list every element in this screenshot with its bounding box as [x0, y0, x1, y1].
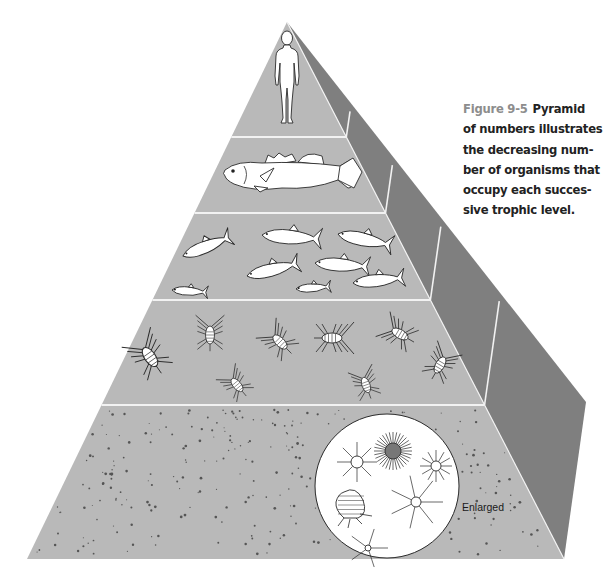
phytoplankton-speck	[292, 420, 293, 421]
phytoplankton-speck	[248, 442, 249, 443]
phytoplankton-speck	[315, 507, 316, 508]
phytoplankton-speck	[483, 452, 485, 454]
phytoplankton-speck	[232, 413, 234, 415]
phytoplankton-speck	[270, 531, 272, 533]
phytoplankton-speck	[274, 424, 276, 426]
phytoplankton-speck	[291, 425, 293, 427]
phytoplankton-speck	[298, 468, 300, 470]
phytoplankton-speck	[461, 471, 463, 473]
phytoplankton-speck	[110, 487, 112, 489]
phytoplankton-speck	[334, 413, 335, 414]
phytoplankton-speck	[519, 501, 522, 504]
phytoplankton-speck	[77, 550, 79, 552]
phytoplankton-speck	[254, 525, 256, 527]
phytoplankton-speck	[300, 475, 303, 478]
phytoplankton-speck	[265, 496, 267, 498]
phytoplankton-speck	[253, 480, 255, 482]
phytoplankton-speck	[107, 447, 109, 449]
phytoplankton-speck	[113, 465, 114, 466]
phytoplankton-speck	[120, 491, 122, 493]
phytoplankton-speck	[402, 412, 404, 414]
phytoplankton-speck	[293, 505, 296, 508]
phytoplankton-speck	[188, 409, 191, 412]
phytoplankton-speck	[149, 423, 150, 424]
phytoplankton-speck	[82, 545, 84, 547]
phytoplankton-speck	[173, 476, 174, 477]
trophic-pyramid-diagram: .org{fill:#ffffff;stroke:#2a2a2a;stroke-…	[0, 0, 616, 587]
phytoplankton-speck	[480, 472, 481, 473]
phytoplankton-speck	[121, 504, 122, 505]
phytoplankton-speck	[150, 509, 152, 511]
phytoplankton-speck	[199, 439, 202, 442]
phytoplankton-speck	[239, 473, 240, 474]
radiolarian-a	[337, 442, 377, 482]
phytoplankton-speck	[309, 477, 311, 479]
phytoplankton-speck	[201, 428, 203, 430]
phytoplankton-speck	[159, 429, 160, 430]
phytoplankton-speck	[211, 429, 213, 431]
cell-body	[365, 545, 371, 551]
phytoplankton-speck	[266, 552, 267, 553]
phytoplankton-speck	[306, 412, 309, 415]
phytoplankton-speck	[330, 539, 331, 540]
phytoplankton-speck	[91, 433, 94, 436]
phytoplankton-speck	[306, 485, 308, 487]
phytoplankton-speck	[247, 496, 249, 498]
phytoplankton-speck	[475, 421, 477, 423]
phytoplankton-speck	[441, 413, 442, 414]
phytoplankton-speck	[115, 499, 117, 501]
phytoplankton-speck	[189, 507, 190, 508]
phytoplankton-speck	[487, 464, 489, 466]
phytoplankton-speck	[404, 412, 405, 413]
phytoplankton-speck	[498, 480, 501, 483]
phytoplankton-speck	[313, 540, 316, 543]
phytoplankton-speck	[146, 501, 149, 504]
phytoplankton-speck	[510, 503, 512, 505]
phytoplankton-speck	[537, 546, 538, 547]
phytoplankton-speck	[89, 454, 92, 457]
phytoplankton-speck	[287, 409, 289, 411]
phytoplankton-speck	[317, 413, 319, 415]
phytoplankton-speck	[216, 489, 217, 490]
phytoplankton-speck	[119, 435, 120, 436]
phytoplankton-speck	[283, 534, 285, 536]
phytoplankton-speck	[82, 484, 84, 486]
phytoplankton-speck	[184, 514, 187, 517]
phytoplankton-speck	[290, 505, 291, 506]
phytoplankton-speck	[182, 476, 184, 478]
phytoplankton-speck	[222, 410, 224, 412]
large-fish-eye	[231, 169, 235, 173]
caption-line-1: of numbers illustrates	[463, 122, 602, 136]
phytoplankton-speck	[214, 516, 217, 519]
phytoplankton-speck	[39, 549, 41, 551]
phytoplankton-speck	[184, 445, 187, 448]
phytoplankton-speck	[485, 492, 486, 493]
phytoplankton-speck	[251, 461, 253, 463]
phytoplankton-speck	[111, 469, 112, 470]
phytoplankton-speck	[83, 506, 86, 509]
phytoplankton-speck	[57, 506, 58, 507]
phytoplankton-speck	[245, 459, 246, 460]
phytoplankton-speck	[343, 418, 345, 420]
phytoplankton-speck	[458, 551, 460, 553]
phytoplankton-speck	[530, 533, 533, 536]
phytoplankton-speck	[150, 473, 152, 475]
phytoplankton-speck	[115, 498, 116, 499]
phytoplankton-speck	[510, 495, 512, 497]
phytoplankton-speck	[204, 460, 205, 461]
phytoplankton-speck	[298, 457, 301, 460]
phytoplankton-speck	[474, 409, 476, 411]
phytoplankton-speck	[213, 436, 214, 437]
phytoplankton-speck	[151, 433, 152, 434]
phytoplankton-speck	[191, 426, 193, 428]
phytoplankton-speck	[157, 535, 160, 538]
phytoplankton-speck	[224, 431, 225, 432]
phytoplankton-speck	[217, 542, 219, 544]
phytoplankton-speck	[496, 474, 497, 475]
phytoplankton-speck	[151, 536, 152, 537]
phytoplankton-speck	[449, 531, 451, 533]
phytoplankton-speck	[317, 541, 320, 544]
phytoplankton-speck	[229, 435, 231, 437]
enlarged-label: Enlarged	[462, 501, 504, 513]
phytoplankton-speck	[435, 428, 437, 430]
